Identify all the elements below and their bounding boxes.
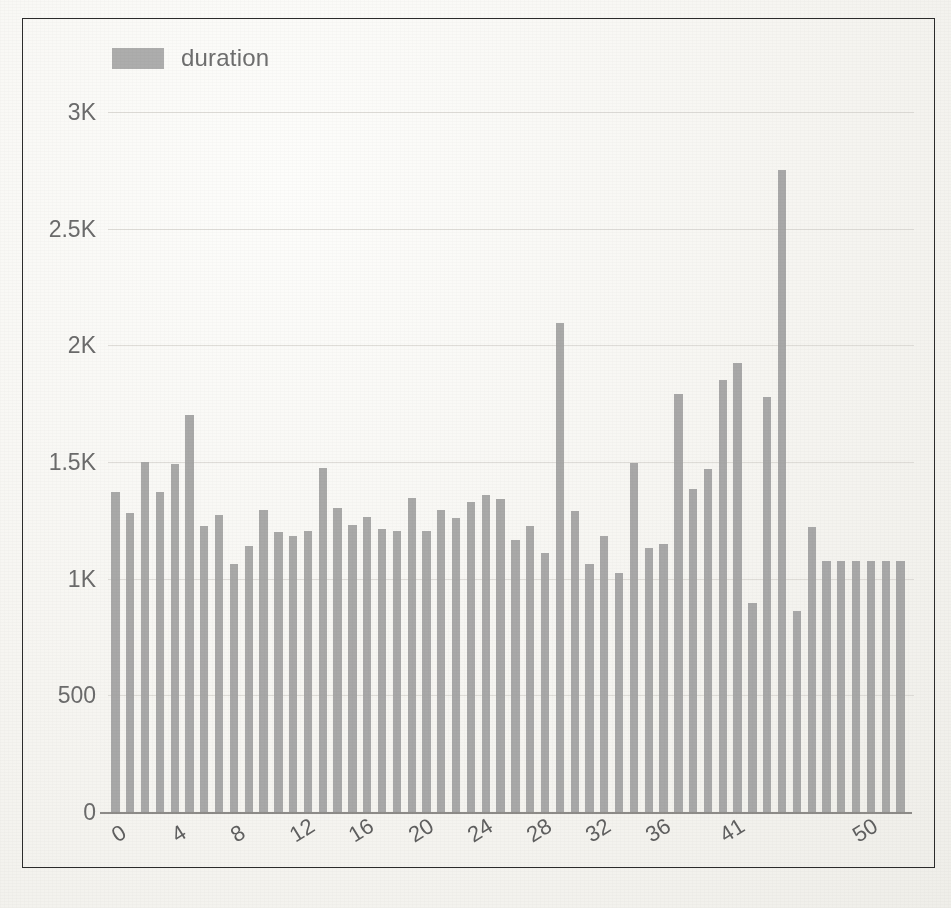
bar[interactable]	[289, 536, 297, 813]
figure-caption	[30, 884, 930, 906]
x-tick-label: 36	[641, 813, 676, 848]
legend-label-duration: duration	[181, 44, 269, 72]
bar[interactable]	[215, 515, 223, 813]
bar[interactable]	[482, 495, 490, 812]
bar[interactable]	[793, 611, 801, 812]
bar[interactable]	[126, 513, 134, 812]
y-tick-label: 2K	[14, 332, 96, 359]
bar[interactable]	[496, 499, 504, 812]
y-tick-label: 2.5K	[14, 215, 96, 242]
bar[interactable]	[585, 564, 593, 813]
x-tick-label: 41	[715, 813, 750, 848]
bar[interactable]	[882, 561, 890, 812]
x-tick-label: 50	[848, 813, 883, 848]
bar[interactable]	[348, 525, 356, 812]
bar[interactable]	[541, 553, 549, 812]
bar[interactable]	[748, 603, 756, 812]
bar[interactable]	[245, 546, 253, 812]
x-tick-label: 28	[522, 813, 557, 848]
bar[interactable]	[378, 529, 386, 813]
bar[interactable]	[363, 517, 371, 812]
bar[interactable]	[556, 323, 564, 812]
bar[interactable]	[333, 508, 341, 813]
bar[interactable]	[645, 548, 653, 812]
x-tick-label: 0	[107, 820, 131, 849]
bar[interactable]	[452, 518, 460, 812]
y-tick-label: 0	[14, 799, 96, 826]
x-tick-label: 16	[344, 813, 379, 848]
bar[interactable]	[259, 510, 267, 812]
bar[interactable]	[867, 561, 875, 812]
plot-area	[108, 112, 908, 812]
x-tick-label: 4	[167, 820, 191, 849]
bar[interactable]	[200, 526, 208, 812]
bar[interactable]	[808, 527, 816, 812]
bar[interactable]	[630, 463, 638, 812]
x-axis-baseline	[100, 812, 912, 814]
bar[interactable]	[437, 510, 445, 812]
y-tick-label: 1.5K	[14, 449, 96, 476]
bar[interactable]	[467, 502, 475, 812]
bar[interactable]	[659, 544, 667, 812]
bar[interactable]	[896, 561, 904, 812]
y-tick-label: 1K	[14, 565, 96, 592]
legend-swatch-duration	[112, 48, 164, 69]
bar[interactable]	[704, 469, 712, 812]
bar[interactable]	[600, 536, 608, 813]
x-tick-label: 20	[404, 813, 439, 848]
bar[interactable]	[763, 397, 771, 812]
bar[interactable]	[111, 492, 119, 812]
x-tick-label: 12	[285, 813, 320, 848]
bar[interactable]	[852, 561, 860, 812]
bar[interactable]	[422, 531, 430, 812]
x-tick-label: 32	[581, 813, 616, 848]
y-tick-label: 500	[14, 682, 96, 709]
bar[interactable]	[185, 415, 193, 812]
bar[interactable]	[689, 489, 697, 812]
bar-series-duration[interactable]	[108, 112, 908, 812]
bar[interactable]	[733, 363, 741, 812]
x-axis-labels: 048121620242832364150	[108, 818, 928, 866]
bar[interactable]	[511, 540, 519, 812]
bar[interactable]	[674, 394, 682, 812]
bar[interactable]	[171, 464, 179, 812]
x-tick-label: 8	[226, 820, 250, 849]
bar[interactable]	[571, 511, 579, 812]
bar[interactable]	[719, 380, 727, 812]
bar[interactable]	[778, 170, 786, 812]
bar[interactable]	[319, 468, 327, 812]
bar[interactable]	[837, 561, 845, 812]
bar[interactable]	[526, 526, 534, 812]
bar[interactable]	[141, 462, 149, 812]
chart-legend[interactable]: duration	[112, 44, 269, 72]
bar[interactable]	[230, 564, 238, 813]
bar[interactable]	[274, 532, 282, 812]
bar[interactable]	[156, 492, 164, 812]
bar[interactable]	[408, 498, 416, 812]
y-tick-label: 3K	[14, 99, 96, 126]
bar[interactable]	[615, 573, 623, 812]
bar[interactable]	[393, 531, 401, 812]
bar[interactable]	[822, 561, 830, 812]
bar[interactable]	[304, 531, 312, 812]
x-tick-label: 24	[463, 813, 498, 848]
y-axis-labels: 05001K1.5K2K2.5K3K	[10, 112, 96, 812]
